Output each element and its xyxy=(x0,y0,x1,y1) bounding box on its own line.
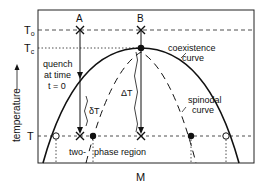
spinodal-label-line1: spinodal xyxy=(188,95,222,105)
delta-t-large-label: ΔT xyxy=(121,88,133,98)
delta-t-small-brace xyxy=(85,96,88,126)
region-label-part1: two- xyxy=(69,147,86,157)
point-a-label: A xyxy=(76,13,83,24)
spinodal-point-left xyxy=(90,133,96,139)
quench-label-line1: quench xyxy=(43,59,73,69)
critical-point xyxy=(138,45,145,52)
coexistence-label-line2: curve xyxy=(182,53,204,63)
up-arrow-icon xyxy=(15,64,20,70)
t0-label: To xyxy=(24,24,35,37)
quench-label-line2: at time xyxy=(44,70,71,80)
quench-label-line3: t = 0 xyxy=(48,81,66,91)
x-axis-title: M xyxy=(136,171,145,183)
spinodal-point-right xyxy=(188,133,194,139)
coexistence-point-right xyxy=(223,133,229,139)
spinodal-label-line2: curve xyxy=(192,105,214,115)
tc-label: Tc xyxy=(24,42,35,55)
t-label: T xyxy=(27,130,34,142)
spinodal-leader xyxy=(182,107,186,112)
coexistence-point-left xyxy=(53,133,59,139)
plot-frame xyxy=(38,10,254,163)
phase-diagram: To Tc T temperature M A B quench at time… xyxy=(0,0,267,188)
coexistence-label-line1: coexistence xyxy=(168,43,216,53)
delta-t-small-label: δT xyxy=(89,106,100,116)
y-axis-title: temperature xyxy=(11,88,22,142)
region-label-part2: phase region xyxy=(94,147,146,157)
delta-t-large-brace xyxy=(135,52,138,132)
point-b-label: B xyxy=(137,13,144,24)
